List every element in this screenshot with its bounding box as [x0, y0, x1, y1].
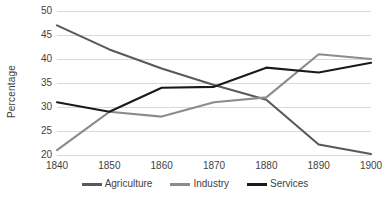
chart-legend: AgricultureIndustryServices: [0, 176, 390, 192]
legend-label: Industry: [193, 179, 229, 189]
x-tick-label: 1860: [140, 161, 184, 171]
x-tick-label: 1890: [297, 161, 341, 171]
y-tick-label: 35: [28, 78, 52, 88]
x-tick-label: 1850: [87, 161, 131, 171]
legend-label: Services: [270, 179, 308, 189]
y-tick-label: 50: [28, 6, 52, 16]
series-line-industry: [57, 54, 371, 150]
line-chart: Percentage 20253035404550 18401850186018…: [0, 0, 390, 200]
legend-label: Agriculture: [105, 179, 153, 189]
legend-item-industry[interactable]: Industry: [170, 179, 229, 189]
y-tick-label: 45: [28, 30, 52, 40]
series-line-services: [57, 63, 371, 112]
x-tick-label: 1870: [192, 161, 236, 171]
y-tick-label: 25: [28, 126, 52, 136]
legend-item-services[interactable]: Services: [247, 179, 308, 189]
legend-swatch-icon: [247, 183, 267, 186]
y-tick-label: 20: [28, 150, 52, 160]
y-axis-title-label: Percentage: [6, 60, 17, 124]
legend-swatch-icon: [170, 183, 190, 186]
y-axis-title: Percentage: [2, 38, 20, 148]
legend-swatch-icon: [82, 183, 102, 186]
x-tick-label: 1880: [244, 161, 288, 171]
series-line-agriculture: [57, 25, 371, 154]
y-tick-label: 30: [28, 102, 52, 112]
legend-item-agriculture[interactable]: Agriculture: [82, 179, 153, 189]
x-tick-label: 1900: [349, 161, 390, 171]
y-tick-label: 40: [28, 54, 52, 64]
x-tick-label: 1840: [35, 161, 79, 171]
